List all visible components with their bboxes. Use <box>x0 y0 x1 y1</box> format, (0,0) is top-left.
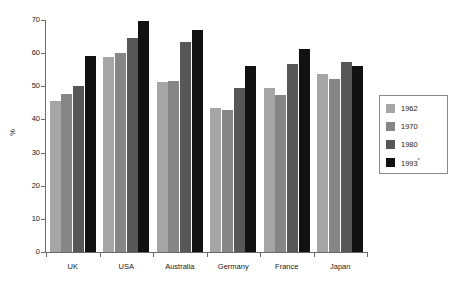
y-tick-label: 10 <box>14 215 40 223</box>
bar-group <box>210 20 256 252</box>
bar <box>103 57 114 252</box>
x-tick-mark <box>46 252 47 257</box>
bar-group <box>264 20 310 252</box>
plot-area <box>46 20 367 252</box>
y-tick-label: 0 <box>14 248 40 256</box>
legend-label: 1970 <box>401 122 418 131</box>
bar <box>115 53 126 252</box>
x-tick-mark <box>314 252 315 257</box>
y-tick-label-text: 40 <box>20 115 40 123</box>
x-tick-mark <box>260 252 261 257</box>
bar <box>264 88 275 252</box>
legend-swatch-icon <box>386 122 395 131</box>
bar <box>168 81 179 252</box>
y-tick-label-text: 60 <box>20 49 40 57</box>
legend-item[interactable]: 1970 <box>386 121 418 131</box>
y-tick-label-text: 30 <box>20 149 40 157</box>
y-tick-label: 70 <box>14 16 40 24</box>
y-tick-label: 50 <box>14 82 40 90</box>
legend: 1962197019801993* <box>379 95 448 174</box>
bar <box>234 88 245 252</box>
bar <box>180 42 191 252</box>
y-tick-label: 40 <box>14 115 40 123</box>
legend-swatch-icon <box>386 140 395 149</box>
bar <box>192 30 203 252</box>
y-axis-title: % <box>8 129 17 136</box>
x-category-label: Australia <box>153 262 207 271</box>
bar <box>222 110 233 252</box>
bar <box>61 94 72 252</box>
y-tick-label: 20 <box>14 182 40 190</box>
legend-item[interactable]: 1980 <box>386 139 418 149</box>
legend-item[interactable]: 1993* <box>386 157 420 167</box>
bar <box>127 38 138 252</box>
bar <box>245 66 256 252</box>
x-category-label: UK <box>46 262 100 271</box>
legend-label: 1980 <box>401 140 418 149</box>
bar <box>329 79 340 252</box>
x-category-label: Germany <box>207 262 261 271</box>
y-tick-label: 60 <box>14 49 40 57</box>
bar <box>317 74 328 252</box>
x-tick-mark <box>207 252 208 257</box>
bar <box>85 56 96 252</box>
legend-item[interactable]: 1962 <box>386 103 418 113</box>
bar <box>210 108 221 252</box>
y-tick-label-text: 10 <box>20 215 40 223</box>
bar-group <box>50 20 96 252</box>
x-category-label: USA <box>100 262 154 271</box>
y-tick-label-text: 20 <box>20 182 40 190</box>
x-tick-mark <box>100 252 101 257</box>
x-tick-mark <box>153 252 154 257</box>
bar <box>50 101 61 252</box>
bar <box>157 82 168 252</box>
bar <box>275 95 286 252</box>
y-tick-label-text: 70 <box>20 16 40 24</box>
y-tick-label: 30 <box>14 149 40 157</box>
y-tick-label-text: 50 <box>20 82 40 90</box>
bar-group <box>103 20 149 252</box>
legend-label: 1962 <box>401 104 418 113</box>
y-tick-label-text: 0 <box>20 248 40 256</box>
bar-group <box>317 20 363 252</box>
bar <box>299 49 310 252</box>
bar <box>341 62 352 252</box>
legend-swatch-icon <box>386 104 395 113</box>
bar-chart: 010203040506070 % UKUSAAustraliaGermanyF… <box>0 0 456 289</box>
bar <box>352 66 363 252</box>
x-category-label: Japan <box>314 262 368 271</box>
x-category-label: France <box>260 262 314 271</box>
legend-label: 1993* <box>401 156 420 168</box>
legend-swatch-icon <box>386 158 395 167</box>
bar-group <box>157 20 203 252</box>
x-tick-mark <box>367 252 368 257</box>
bar <box>73 86 84 252</box>
bar <box>138 21 149 252</box>
bar <box>287 64 298 252</box>
